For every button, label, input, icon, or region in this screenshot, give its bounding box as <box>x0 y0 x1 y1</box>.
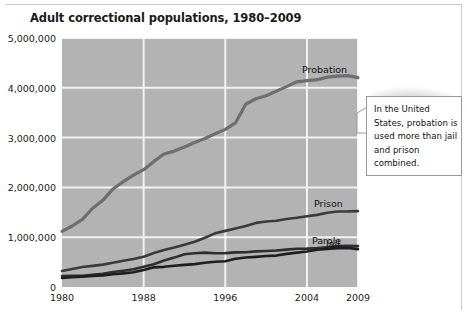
x-tick-label: 1996 <box>213 292 237 303</box>
y-tick-label: 5,000,000 <box>8 33 56 44</box>
x-tick-label: 2009 <box>346 292 370 303</box>
y-tick-label: 2,000,000 <box>8 182 56 193</box>
callout-box: In the United States, probation is used … <box>366 96 462 176</box>
y-tick-label: 0 <box>50 282 56 293</box>
y-tick-label: 1,000,000 <box>8 232 56 243</box>
series-label-probation: Probation <box>302 64 347 75</box>
series-lines <box>62 38 358 287</box>
x-tick-label: 2004 <box>295 292 319 303</box>
figure-container: Adult correctional populations, 1980–200… <box>0 0 467 316</box>
series-label-prison: Prison <box>314 198 343 209</box>
x-tick-label: 1980 <box>50 292 74 303</box>
callout-text: In the United States, probation is used … <box>374 103 460 171</box>
series-label-jail: Jail <box>326 238 340 249</box>
y-tick-label: 3,000,000 <box>8 132 56 143</box>
y-tick-label: 4,000,000 <box>8 82 56 93</box>
x-tick-label: 1988 <box>132 292 156 303</box>
plot-area <box>62 38 358 287</box>
